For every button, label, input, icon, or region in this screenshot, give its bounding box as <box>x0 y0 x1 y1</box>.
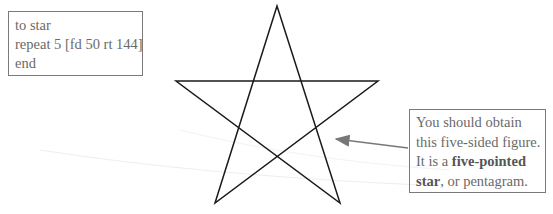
note-line: It is a five-pointed <box>416 152 545 172</box>
code-line: end <box>15 54 142 73</box>
note-text: It is a <box>416 153 452 169</box>
note-line: You should obtain <box>416 113 545 133</box>
annotation-box: You should obtain this five-sided figure… <box>409 109 546 193</box>
code-line: to star <box>15 16 142 35</box>
note-line: star, or pentagram. <box>416 172 545 192</box>
logo-code-box: to star repeat 5 [fd 50 rt 144] end <box>8 11 143 76</box>
pointer-arrow <box>336 139 408 148</box>
note-bold: star <box>416 173 440 189</box>
pentagram-star <box>176 6 378 203</box>
note-text: , or pentagram. <box>440 173 528 189</box>
code-line: repeat 5 [fd 50 rt 144] <box>15 35 142 54</box>
note-bold: five-pointed <box>452 153 526 169</box>
note-line: this five-sided figure. <box>416 133 545 153</box>
